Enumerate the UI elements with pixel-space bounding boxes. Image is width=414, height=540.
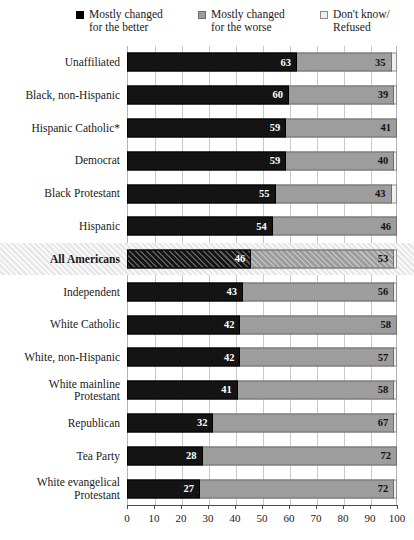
bar-segment-dont-know [394, 86, 397, 105]
chart-row: Hispanic5446 [0, 210, 414, 243]
stacked-bar: 6335 [127, 53, 397, 72]
bar-segment-better: 41 [127, 381, 238, 400]
chart-row: White, non-Hispanic4257 [0, 341, 414, 374]
bar-value-label: 58 [378, 385, 394, 396]
bar-value-label: 46 [235, 254, 251, 265]
bar-segment-worse: 43 [276, 184, 392, 203]
bar-segment-better: 55 [127, 184, 276, 203]
x-tick-20 [181, 505, 182, 509]
stacked-bar: 6039 [127, 86, 397, 105]
bar-value-label: 54 [256, 221, 272, 232]
chart-row: Unaffiliated6335 [0, 46, 414, 79]
bar-value-label: 53 [378, 254, 394, 265]
legend-label-worse: Mostly changed for the worse [211, 8, 285, 34]
bar-segment-better: 63 [127, 53, 297, 72]
x-tick-80 [343, 505, 344, 509]
category-label: Hispanic [0, 220, 120, 233]
bar-segment-worse: 46 [273, 217, 397, 236]
chart-row: White Catholic4258 [0, 308, 414, 341]
x-tick-0 [127, 505, 128, 509]
bar-value-label: 40 [378, 155, 394, 166]
x-tick-30 [208, 505, 209, 509]
chart-row: Democrat5940 [0, 144, 414, 177]
bar-segment-worse: 67 [213, 414, 394, 433]
stacked-bar: 4653 [127, 250, 397, 269]
bar-segment-dont-know [392, 53, 397, 72]
bar-value-label: 27 [183, 483, 199, 494]
bar-value-label: 59 [270, 155, 286, 166]
x-axis: 0102030405060708090100 [127, 505, 397, 535]
bar-value-label: 39 [378, 90, 394, 101]
bar-segment-better: 43 [127, 282, 243, 301]
bar-segment-better: 54 [127, 217, 273, 236]
category-label: White, non-Hispanic [0, 351, 120, 364]
category-label: Hispanic Catholic* [0, 122, 120, 135]
x-tick-label-90: 90 [365, 512, 376, 524]
chart-row: All Americans4653 [0, 243, 414, 276]
bar-segment-better: 59 [127, 118, 286, 137]
bar-value-label: 67 [378, 418, 394, 429]
chart-row: Republican3267 [0, 407, 414, 440]
bar-segment-dont-know [394, 282, 397, 301]
bar-segment-dont-know [394, 250, 397, 269]
bar-segment-better: 42 [127, 348, 240, 367]
chart-row: Independent4356 [0, 276, 414, 309]
chart-row: White evangelical Protestant2772 [0, 472, 414, 505]
x-tick-label-40: 40 [230, 512, 241, 524]
legend-item-worse: Mostly changed for the worse [198, 8, 285, 34]
stacked-bar: 2772 [127, 479, 397, 498]
category-label: Democrat [0, 154, 120, 167]
category-label: Black Protestant [0, 187, 120, 200]
bar-segment-worse: 58 [240, 315, 397, 334]
chart-row: Tea Party2872 [0, 439, 414, 472]
x-tick-label-80: 80 [338, 512, 349, 524]
bar-value-label: 46 [380, 221, 396, 232]
category-label: White mainline Protestant [0, 378, 120, 403]
x-tick-label-60: 60 [284, 512, 295, 524]
category-label: Tea Party [0, 450, 120, 463]
x-tick-50 [262, 505, 263, 509]
bar-value-label: 43 [375, 188, 391, 199]
stacked-bar: 2872 [127, 446, 397, 465]
bar-value-label: 72 [378, 483, 394, 494]
bar-value-label: 58 [380, 319, 396, 330]
x-tick-label-70: 70 [311, 512, 322, 524]
bar-segment-worse: 72 [203, 446, 397, 465]
stacked-bar: 4258 [127, 315, 397, 334]
bar-value-label: 42 [224, 352, 240, 363]
bar-value-label: 55 [259, 188, 275, 199]
bar-value-label: 59 [270, 123, 286, 134]
bar-value-label: 41 [380, 123, 396, 134]
bar-segment-better: 42 [127, 315, 240, 334]
bar-segment-dont-know [394, 381, 397, 400]
chart-row: Black Protestant5543 [0, 177, 414, 210]
x-tick-label-50: 50 [257, 512, 268, 524]
stacked-bar: 3267 [127, 414, 397, 433]
chart-row: White mainline Protestant4158 [0, 374, 414, 407]
bar-value-label: 41 [221, 385, 237, 396]
x-tick-60 [289, 505, 290, 509]
bar-value-label: 56 [378, 287, 394, 298]
legend-label-dont-know: Don't know/ Refused [333, 8, 390, 34]
bar-segment-better: 46 [127, 250, 251, 269]
bar-value-label: 42 [224, 319, 240, 330]
chart-legend: Mostly changed for the better Mostly cha… [0, 6, 414, 40]
legend-item-dont-know: Don't know/ Refused [320, 8, 390, 34]
bar-segment-worse: 40 [286, 151, 394, 170]
x-tick-100 [397, 505, 398, 509]
chart-row: Hispanic Catholic*5941 [0, 112, 414, 145]
x-tick-10 [154, 505, 155, 509]
chart-rows: Unaffiliated6335Black, non-Hispanic6039H… [0, 46, 414, 505]
bar-segment-better: 28 [127, 446, 203, 465]
category-label: White Catholic [0, 318, 120, 331]
legend-label-better: Mostly changed for the better [89, 8, 163, 34]
x-tick-label-20: 20 [176, 512, 187, 524]
bar-segment-better: 59 [127, 151, 286, 170]
bar-segment-worse: 35 [297, 53, 392, 72]
stacked-bar: 5941 [127, 118, 397, 137]
category-label: Black, non-Hispanic [0, 89, 120, 102]
bar-value-label: 43 [227, 287, 243, 298]
stacked-bar: 4257 [127, 348, 397, 367]
category-label: All Americans [0, 253, 120, 266]
bar-segment-worse: 56 [243, 282, 394, 301]
